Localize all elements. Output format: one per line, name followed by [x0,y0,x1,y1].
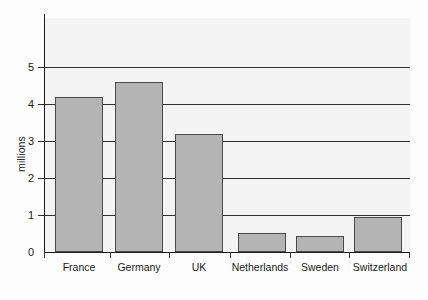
y-tick-label-1: 1 [10,210,34,221]
bar-uk [175,134,223,252]
bar-france [55,97,103,252]
x-tick-4 [290,252,291,258]
y-tick-1 [38,215,44,216]
x-axis-line [44,252,410,253]
bar-netherlands [238,233,286,252]
bar-switzerland [354,217,402,252]
y-tick-3 [38,141,44,142]
x-tick-1 [110,252,111,258]
x-label-switzerland: Switzerland [341,262,419,273]
y-tick-5 [38,67,44,68]
bar-germany [115,82,163,252]
x-tick-2 [169,252,170,258]
y-tick-label-0: 0 [10,247,34,258]
y-tick-label-4: 4 [10,99,34,110]
y-tick-2 [38,178,44,179]
gridline-5 [44,67,410,68]
x-tick-6 [409,252,410,258]
y-axis-title: millions [15,124,27,184]
x-tick-3 [230,252,231,258]
y-tick-label-5: 5 [10,62,34,73]
x-tick-0 [44,252,45,258]
bar-chart-figure: 5 4 3 2 1 0 millions France Germany UK N… [0,0,428,300]
y-axis-line [44,14,45,254]
y-tick-4 [38,104,44,105]
bar-sweden [296,236,344,252]
x-tick-5 [349,252,350,258]
